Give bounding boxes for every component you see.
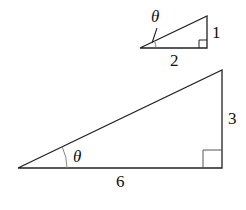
large-adjacent-label: 6 — [116, 173, 125, 190]
large-opposite-label: 3 — [228, 110, 237, 127]
small-adjacent-label: 2 — [170, 52, 179, 69]
large-angle-label: θ — [73, 148, 81, 165]
large-triangle — [18, 70, 222, 168]
small-angle-label: θ — [151, 8, 159, 25]
small-opposite-label: 1 — [212, 24, 221, 41]
